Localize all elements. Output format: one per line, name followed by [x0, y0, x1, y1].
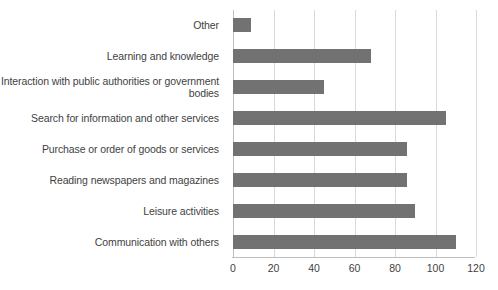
bar-row [233, 103, 476, 134]
x-tick-label-20: 20 [268, 262, 280, 275]
category-axis: Other Learning and knowledge Interaction… [0, 10, 225, 257]
bar-series [233, 10, 476, 257]
axis-line [232, 257, 475, 258]
bar-0 [233, 18, 251, 32]
bar-1 [233, 49, 371, 63]
category-label: Other [0, 10, 225, 41]
bar-4 [233, 142, 407, 156]
bar-row [233, 72, 476, 103]
value-axis: 020406080100120 [233, 257, 476, 281]
x-tick-label-60: 60 [349, 262, 361, 275]
gridline-120 [476, 10, 477, 257]
x-tick-label-80: 80 [389, 262, 401, 275]
bar-row [233, 134, 476, 165]
bar-row [233, 164, 476, 195]
x-tick-label-120: 120 [467, 262, 485, 275]
category-label: Search for information and other service… [0, 103, 225, 134]
plot-area [233, 10, 476, 257]
x-tick-label-100: 100 [427, 262, 445, 275]
bar-5 [233, 173, 407, 187]
x-tick-label-0: 0 [230, 262, 236, 275]
bar-3 [233, 111, 446, 125]
category-label: Communication with others [0, 226, 225, 257]
category-label: Purchase or order of goods or services [0, 134, 225, 165]
bar-row [233, 41, 476, 72]
category-label: Reading newspapers and magazines [0, 164, 225, 195]
bar-row [233, 10, 476, 41]
bar-7 [233, 235, 456, 249]
category-label: Learning and knowledge [0, 41, 225, 72]
bar-row [233, 226, 476, 257]
x-tick-label-40: 40 [308, 262, 320, 275]
category-label: Interaction with public authorities or g… [0, 72, 225, 103]
bar-2 [233, 80, 324, 94]
bar-chart: Other Learning and knowledge Interaction… [0, 0, 498, 290]
category-label: Leisure activities [0, 195, 225, 226]
bar-row [233, 195, 476, 226]
bar-6 [233, 204, 415, 218]
